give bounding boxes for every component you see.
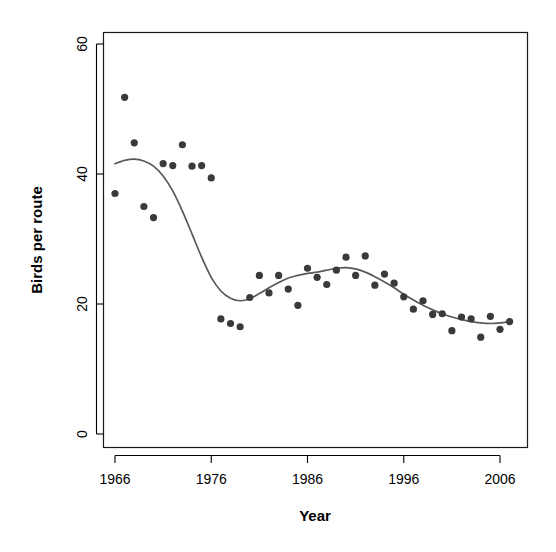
x-axis-title: Year <box>299 507 331 524</box>
data-point <box>342 254 349 261</box>
data-point <box>179 141 186 148</box>
data-point <box>448 327 455 334</box>
y-tick-label-40: 40 <box>74 166 90 182</box>
data-point <box>304 265 311 272</box>
y-tick-label-20: 20 <box>74 296 90 312</box>
x-axis: 19661976198619962006 Year <box>99 456 515 525</box>
y-tick-label-60: 60 <box>74 36 90 52</box>
x-tick-label-2006: 2006 <box>484 471 515 487</box>
scatter-plot-canvas: 0204060 Birds per route 1966197619861996… <box>0 0 556 552</box>
x-tick-label-1976: 1976 <box>196 471 227 487</box>
y-axis-title: Birds per route <box>28 186 45 294</box>
data-point <box>294 302 301 309</box>
data-point <box>477 334 484 341</box>
y-tick-label-0: 0 <box>74 430 90 438</box>
data-point <box>208 174 215 181</box>
loess-trend-line <box>115 159 510 323</box>
x-tick-marks <box>115 456 500 464</box>
data-point <box>314 274 321 281</box>
plot-frame <box>104 33 528 448</box>
data-point <box>131 139 138 146</box>
data-point <box>410 306 417 313</box>
data-point <box>487 313 494 320</box>
data-point <box>419 297 426 304</box>
data-point <box>439 310 446 317</box>
x-tick-label-1966: 1966 <box>99 471 130 487</box>
data-point <box>140 203 147 210</box>
data-point <box>381 271 388 278</box>
data-point <box>400 293 407 300</box>
data-point <box>275 272 282 279</box>
x-tick-labels: 19661976198619962006 <box>99 471 515 487</box>
x-tick-label-1986: 1986 <box>292 471 323 487</box>
data-point <box>265 289 272 296</box>
data-point <box>333 267 340 274</box>
data-point <box>169 162 176 169</box>
data-point <box>246 294 253 301</box>
data-point <box>458 313 465 320</box>
data-point <box>150 214 157 221</box>
x-tick-label-1996: 1996 <box>388 471 419 487</box>
data-point <box>371 282 378 289</box>
data-point <box>111 190 118 197</box>
data-point <box>362 252 369 259</box>
data-point <box>121 94 128 101</box>
data-point <box>217 315 224 322</box>
data-point <box>352 272 359 279</box>
data-point <box>227 320 234 327</box>
y-tick-marks <box>97 44 104 434</box>
data-point <box>160 160 167 167</box>
data-point <box>188 163 195 170</box>
data-point <box>468 315 475 322</box>
data-point <box>391 280 398 287</box>
y-tick-labels: 0204060 <box>74 36 90 438</box>
scatter-points <box>111 94 513 341</box>
data-point <box>506 318 513 325</box>
data-point <box>496 326 503 333</box>
y-axis: 0204060 Birds per route <box>28 36 104 438</box>
data-point <box>429 311 436 318</box>
data-point <box>237 323 244 330</box>
data-point <box>256 272 263 279</box>
data-point <box>285 285 292 292</box>
data-point <box>323 281 330 288</box>
data-point <box>198 162 205 169</box>
chart-figure: 0204060 Birds per route 1966197619861996… <box>0 0 556 552</box>
